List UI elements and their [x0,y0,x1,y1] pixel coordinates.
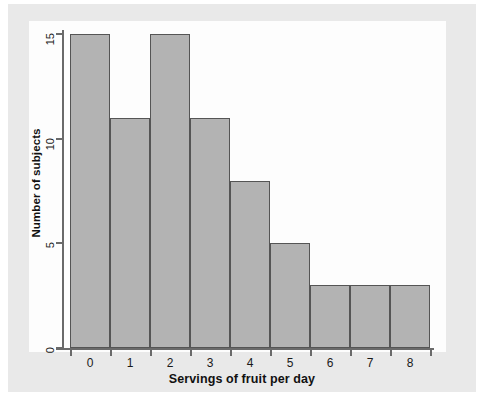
x-tick-label-1: 1 [110,356,150,370]
x-tick-label-5: 5 [270,356,310,370]
x-tick-label-7: 7 [350,356,390,370]
x-axis-title: Servings of fruit per day [0,372,484,386]
x-tick-label-2: 2 [150,356,190,370]
bar-7 [350,285,390,348]
bar-4 [230,181,270,348]
bar-series [0,0,484,405]
histogram-figure: 0 5 10 15 0 1 2 3 4 5 6 7 8 Number of su… [0,0,484,405]
y-axis-title: Number of subjects [30,103,42,263]
bar-6 [310,285,350,348]
x-tick-label-0: 0 [70,356,110,370]
x-tick-mark-bin-9 [430,350,432,356]
bar-8 [390,285,430,348]
x-tick-label-8: 8 [390,356,430,370]
bar-0 [70,34,110,348]
bar-1 [110,118,150,348]
x-tick-label-3: 3 [190,356,230,370]
bar-3 [190,118,230,348]
bar-2 [150,34,190,348]
bar-5 [270,243,310,348]
x-tick-label-4: 4 [230,356,270,370]
x-tick-label-6: 6 [310,356,350,370]
